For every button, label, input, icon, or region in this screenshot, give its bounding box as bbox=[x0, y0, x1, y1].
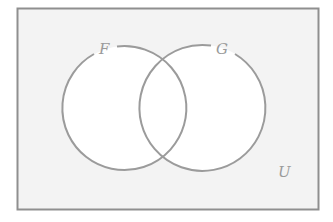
set-g-label: G bbox=[216, 40, 228, 58]
venn-diagram: F G U bbox=[0, 0, 333, 222]
set-f-label: F bbox=[98, 40, 110, 58]
universe-label: U bbox=[278, 163, 292, 181]
